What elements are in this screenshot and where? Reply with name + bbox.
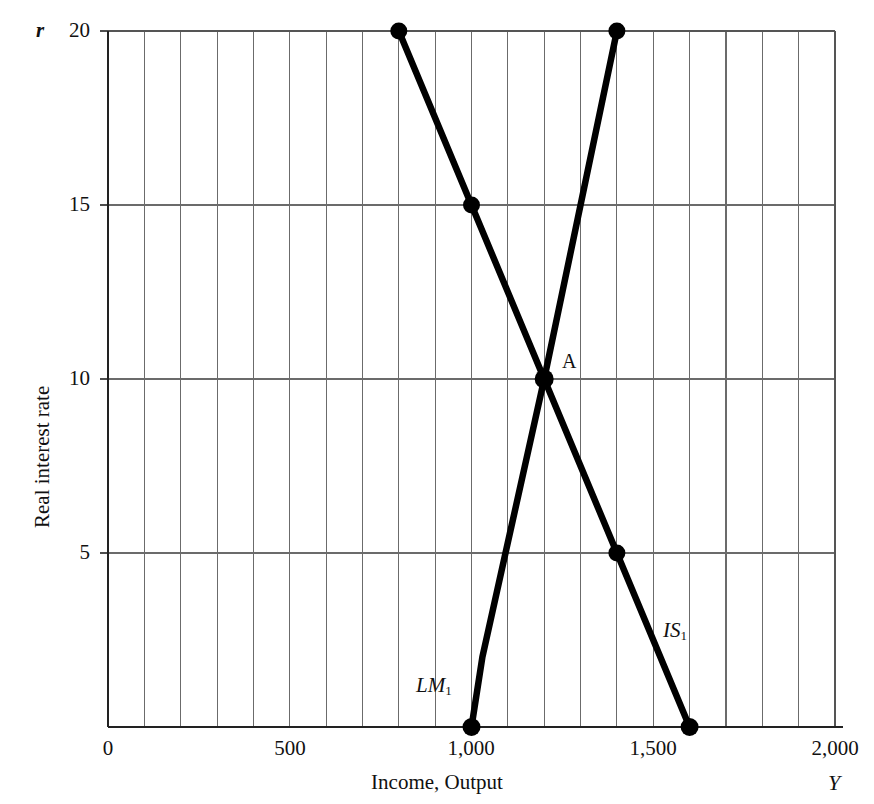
is-curve-label: IS1 [663,618,687,644]
is-curve-label-text: IS [663,618,681,642]
is-point-800-20 [390,23,407,40]
lm-point-1000-0 [463,718,481,736]
is-lm-chart-figure: r 20 15 10 5 Real interest rate 0 500 1,… [0,0,874,804]
x-tick-label-1500: 1,500 [603,738,703,759]
is-point-1400-5 [608,545,625,562]
x-tick-label-0: 0 [58,738,158,759]
is-point-1000-15 [463,197,480,214]
y-tick-label-20: 20 [40,20,90,41]
lm-curve-label-subscript: 1 [445,683,452,698]
lm-curve-label: LM1 [416,673,452,699]
is-point-1600-0 [681,718,699,736]
x-axis-symbol: Y [828,772,840,794]
x-tick-label-500: 500 [240,738,340,759]
is-curve-label-subscript: 1 [681,628,688,643]
y-tick-label-15: 15 [40,194,90,215]
equilibrium-point-a [535,370,554,389]
equilibrium-point-label: A [562,350,576,373]
y-tick-marks [100,31,108,553]
y-axis-title: Real interest rate [30,386,55,528]
lm-point-1400-20 [608,23,625,40]
x-tick-label-2000: 2,000 [785,738,874,759]
lm-curve-label-text: LM [416,673,445,697]
y-tick-label-5: 5 [40,542,90,563]
x-axis-title: Income, Output [0,772,874,793]
x-tick-label-1000: 1,000 [421,738,521,759]
